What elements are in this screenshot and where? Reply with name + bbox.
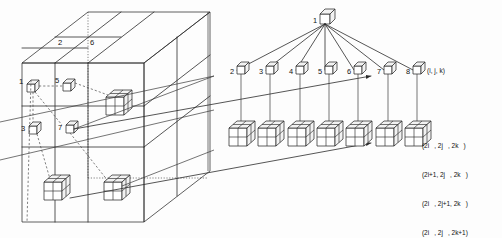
tree-child-node-5[interactable]: 5 — [318, 62, 337, 76]
subdivided-cube-row-item-5 — [346, 121, 372, 146]
octant-marker-cube-3: 3 — [21, 122, 41, 134]
tree-child-label-4: 4 — [289, 67, 293, 76]
octant-marker-cube-7: 7 — [58, 121, 78, 133]
tree-child-label-3: 3 — [259, 67, 263, 76]
octant-label-7: 7 — [58, 123, 62, 132]
coordinate-line: (2i+1, 2j , 2k ) — [422, 170, 502, 180]
tree-child-node-7[interactable]: 7 — [377, 62, 396, 76]
cube-front-face — [22, 63, 144, 222]
octant-label-1: 1 — [19, 77, 23, 86]
index-caption: (i, j, k) — [427, 67, 445, 75]
coordinate-line: (2i , 2j , 2k ) — [422, 141, 502, 151]
subdivided-cube-row-item-6 — [376, 121, 402, 146]
tree-child-node-2[interactable]: 2 — [230, 62, 249, 76]
subdivided-cube-row-item-2 — [258, 121, 284, 146]
tree-child-label-2: 2 — [230, 67, 234, 76]
subdivided-cube-row-item-4 — [317, 121, 343, 146]
coordinate-expression-list: (2i , 2j , 2k ) (2i+1, 2j , 2k ) (2i , 2… — [422, 122, 502, 238]
tree-child-label-7: 7 — [377, 67, 381, 76]
tree-drop-lines — [241, 74, 417, 124]
coordinate-line: (2i , 2j , 2k+1) — [422, 228, 502, 238]
octant-label-5: 5 — [55, 76, 59, 85]
top-face-label-2: 2 — [58, 38, 62, 47]
tree-child-node-8[interactable]: 8 — [406, 62, 425, 76]
octant-marker-cube-5: 5 — [55, 76, 75, 91]
octree-tree: 1 2 3 — [229, 9, 445, 146]
subdivided-cube-row-item-1 — [229, 121, 255, 146]
octree-diagram: 2 6 1 5 3 7 — [0, 0, 502, 238]
tree-root-label: 1 — [313, 16, 317, 25]
coordinate-line: (2i , 2j+1, 2k ) — [422, 199, 502, 209]
tree-child-label-5: 5 — [318, 67, 322, 76]
cube-top-face — [22, 12, 210, 63]
top-face-label-6: 6 — [90, 38, 94, 47]
tree-child-label-8: 8 — [406, 67, 410, 76]
subdivided-cube-in-volume-left — [44, 175, 70, 200]
expansion-guides — [0, 12, 214, 186]
tree-child-label-6: 6 — [347, 67, 351, 76]
tree-root-node[interactable]: 1 — [313, 9, 335, 25]
mapping-arrow-lower — [70, 143, 371, 198]
tree-child-node-4[interactable]: 4 — [289, 62, 308, 76]
octant-label-3: 3 — [21, 124, 25, 133]
tree-child-node-3[interactable]: 3 — [259, 62, 278, 76]
subdivided-cube-in-volume-top — [106, 90, 132, 115]
subdivided-cube-row-item-3 — [288, 121, 314, 146]
